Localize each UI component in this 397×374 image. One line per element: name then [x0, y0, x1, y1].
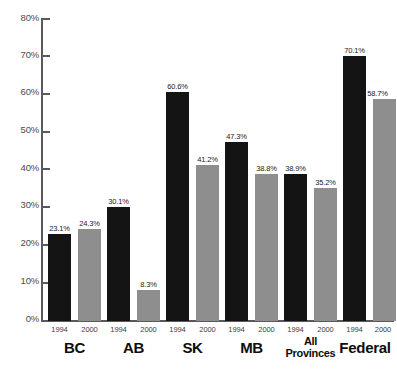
year-label-federal-1994: 1994	[339, 325, 370, 334]
y-axis-label-0: 0%	[3, 314, 39, 324]
bar-mb-1994	[225, 142, 248, 321]
bar-mb-2000	[255, 174, 278, 321]
year-label-bc-2000: 2000	[74, 325, 105, 334]
bar-value-all-provinces-1994: 38.9%	[276, 165, 315, 173]
y-tick-70	[41, 55, 50, 57]
y-axis-label-10: 10%	[3, 276, 39, 286]
bar-value-ab-1994: 30.1%	[99, 198, 138, 206]
year-label-mb-1994: 1994	[221, 325, 252, 334]
year-label-sk-1994: 1994	[162, 325, 193, 334]
year-label-federal-2000: 2000	[369, 325, 397, 334]
y-axis-label-30: 30%	[3, 200, 39, 210]
bar-chart: 80% 70% 60% 50% 40% 30% 20% 10% 0% 23.1%…	[0, 0, 397, 374]
bar-value-all-provinces-2000: 35.2%	[306, 179, 345, 187]
y-axis-label-60: 60%	[3, 87, 39, 97]
bar-value-sk-1994: 60.6%	[158, 83, 197, 91]
year-label-mb-2000: 2000	[251, 325, 282, 334]
year-label-all-provinces-1994: 1994	[280, 325, 311, 334]
bar-all-provinces-2000	[314, 188, 337, 321]
bar-sk-2000	[196, 165, 219, 321]
bar-value-mb-1994: 47.3%	[217, 133, 256, 141]
bar-value-bc-2000: 24.3%	[70, 220, 109, 228]
year-label-all-provinces-2000: 2000	[310, 325, 341, 334]
category-label-federal: Federal	[333, 340, 397, 355]
bar-value-federal-1994: 70.1%	[335, 47, 374, 55]
year-label-bc-1994: 1994	[44, 325, 75, 334]
year-label-sk-2000: 2000	[192, 325, 223, 334]
bar-sk-1994	[166, 92, 189, 321]
bar-ab-2000	[137, 290, 160, 321]
y-axis-label-50: 50%	[3, 125, 39, 135]
y-axis-label-80: 80%	[3, 13, 39, 23]
year-label-ab-1994: 1994	[103, 325, 134, 334]
bar-all-provinces-1994	[284, 174, 307, 321]
category-label-bc: BC	[44, 340, 105, 355]
y-axis-label-40: 40%	[3, 163, 39, 173]
y-tick-50	[41, 131, 50, 133]
bar-bc-1994	[48, 234, 71, 321]
bar-value-ab-2000: 8.3%	[129, 281, 168, 289]
bar-ab-1994	[107, 207, 130, 321]
category-label-sk: SK	[162, 340, 223, 355]
bar-federal-2000	[373, 99, 396, 321]
y-axis-label-20: 20%	[3, 238, 39, 248]
category-label-mb: MB	[221, 340, 282, 355]
bar-value-federal-2000: 58.7%	[358, 90, 397, 98]
y-tick-40	[41, 168, 50, 170]
y-tick-30	[41, 206, 50, 208]
y-tick-60	[41, 93, 50, 95]
category-label-ab: AB	[103, 340, 164, 355]
bar-bc-2000	[78, 229, 101, 321]
y-tick-80	[41, 18, 50, 20]
year-label-ab-2000: 2000	[133, 325, 164, 334]
y-axis-label-70: 70%	[3, 50, 39, 60]
bar-value-sk-2000: 41.2%	[188, 156, 227, 164]
